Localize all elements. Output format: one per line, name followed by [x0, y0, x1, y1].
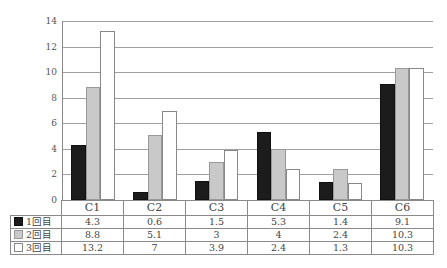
gridline — [62, 21, 433, 22]
category-label: C3 — [186, 201, 248, 216]
table-cell: 5.1 — [124, 229, 186, 242]
table-cell: 7 — [124, 242, 186, 255]
legend-entry: 3回目 — [11, 242, 62, 255]
category-label: C5 — [310, 201, 372, 216]
category-label: C2 — [124, 201, 186, 216]
bar-c4-series-2 — [271, 149, 286, 200]
bar-c6-series-1 — [380, 84, 395, 200]
bar-c4-series-3 — [286, 169, 301, 200]
table-cell: 8.8 — [62, 229, 124, 242]
category-label: C1 — [62, 201, 124, 216]
legend-swatch-icon — [14, 217, 23, 226]
table-row: 3回目13.273.92.41.310.3 — [11, 242, 434, 255]
gridline — [62, 123, 433, 124]
bar-c6-series-2 — [395, 68, 410, 200]
bar-c1-series-3 — [100, 31, 115, 200]
table-cell: 2.4 — [248, 242, 310, 255]
series-name: 1回目 — [26, 216, 52, 227]
gridline — [62, 174, 433, 175]
category-label: C6 — [372, 201, 434, 216]
table-cell: 10.3 — [372, 242, 434, 255]
bar-c5-series-1 — [319, 182, 334, 200]
legend-swatch-icon — [14, 230, 23, 239]
bar-c3-series-2 — [209, 162, 224, 200]
table-cell: 9.1 — [372, 216, 434, 229]
y-axis-line — [62, 21, 63, 200]
table-cell: 0.6 — [124, 216, 186, 229]
bar-c3-series-1 — [195, 181, 210, 200]
y-tick-label: 4 — [0, 144, 57, 154]
table-cell: 3.9 — [186, 242, 248, 255]
table-cell: 10.3 — [372, 229, 434, 242]
legend-entry: 2回目 — [11, 229, 62, 242]
y-tick-label: 10 — [0, 67, 57, 77]
bar-c1-series-1 — [71, 145, 86, 200]
table-cell: 1.3 — [310, 242, 372, 255]
legend-entry: 1回目 — [11, 216, 62, 229]
bar-c5-series-3 — [348, 183, 363, 200]
gridline — [62, 72, 433, 73]
bar-c1-series-2 — [86, 87, 101, 200]
data-table: C1C2C3C4C5C61回目4.30.61.55.31.49.12回目8.85… — [10, 200, 434, 255]
series-name: 2回目 — [26, 229, 52, 240]
y-tick-label: 14 — [0, 16, 57, 26]
table-cell: 4.3 — [62, 216, 124, 229]
bar-c6-series-3 — [409, 68, 424, 200]
table-cell: 2.4 — [310, 229, 372, 242]
table-row: 2回目8.85.1342.410.3 — [11, 229, 434, 242]
gridline — [62, 149, 433, 150]
y-tick-label: 12 — [0, 42, 57, 52]
table-row: 1回目4.30.61.55.31.49.1 — [11, 216, 434, 229]
gridline — [62, 47, 433, 48]
y-tick-label: 2 — [0, 169, 57, 179]
series-name: 3回目 — [26, 242, 52, 253]
bar-c2-series-3 — [162, 111, 177, 201]
legend-swatch-icon — [14, 243, 23, 252]
bar-c4-series-1 — [257, 132, 272, 200]
table-cell: 4 — [248, 229, 310, 242]
table-cell: 1.5 — [186, 216, 248, 229]
bar-chart: 02468101214 C1C2C3C4C5C61回目4.30.61.55.31… — [0, 0, 447, 268]
bar-c3-series-3 — [224, 150, 239, 200]
category-label: C4 — [248, 201, 310, 216]
table-cell: 5.3 — [248, 216, 310, 229]
bar-c5-series-2 — [333, 169, 348, 200]
table-cell: 13.2 — [62, 242, 124, 255]
gridline — [62, 98, 433, 99]
bar-c2-series-2 — [148, 135, 163, 200]
y-tick-label: 6 — [0, 118, 57, 128]
table-cell: 1.4 — [310, 216, 372, 229]
y-tick-label: 8 — [0, 93, 57, 103]
table-cell: 3 — [186, 229, 248, 242]
bar-c2-series-1 — [133, 192, 148, 200]
